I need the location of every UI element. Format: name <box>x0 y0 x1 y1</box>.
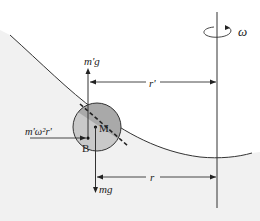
omega-label: ω <box>238 24 247 39</box>
B-label: B <box>82 142 89 154</box>
r-prime-label: r' <box>149 77 156 89</box>
r-label: r <box>150 171 155 183</box>
centrifugal-label: m'ω²r' <box>25 126 52 137</box>
m-prime-g-label: m'g <box>84 55 100 67</box>
rotating-fluid-diagram: ω m'g r' M B m'ω²r' mg r <box>0 0 260 221</box>
point-B <box>86 136 89 139</box>
mg-label: mg <box>99 183 113 195</box>
M-label: M <box>99 122 109 134</box>
